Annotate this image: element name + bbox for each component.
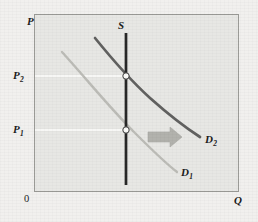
y-tick-p2-base: P — [13, 69, 20, 81]
y-tick-p1-subscript: 1 — [20, 129, 24, 138]
demand-curve-d1-label: D1 — [181, 167, 193, 178]
origin-label: 0 — [24, 194, 29, 205]
x-axis-label: Q — [234, 195, 242, 206]
y-tick-p1-base: P — [13, 123, 20, 135]
demand-curve-d2-label: D2 — [205, 134, 217, 145]
equilibrium-point-p1 — [123, 127, 129, 133]
supply-demand-figure: P 0 Q P2 P1 S D2 D1 — [0, 0, 258, 222]
demand-d1-base: D — [181, 166, 189, 178]
y-axis-label: P — [27, 16, 34, 27]
demand-d1-subscript: 1 — [189, 172, 193, 181]
y-tick-label-p2: P2 — [13, 70, 23, 81]
equilibrium-point-p2 — [123, 73, 129, 79]
y-tick-p2-subscript: 2 — [20, 75, 24, 84]
supply-curve-label: S — [118, 20, 124, 31]
plot-area-background — [35, 15, 239, 192]
demand-d2-subscript: 2 — [213, 139, 217, 148]
y-tick-label-p1: P1 — [13, 124, 23, 135]
chart-canvas — [0, 0, 258, 222]
demand-d2-base: D — [205, 133, 213, 145]
